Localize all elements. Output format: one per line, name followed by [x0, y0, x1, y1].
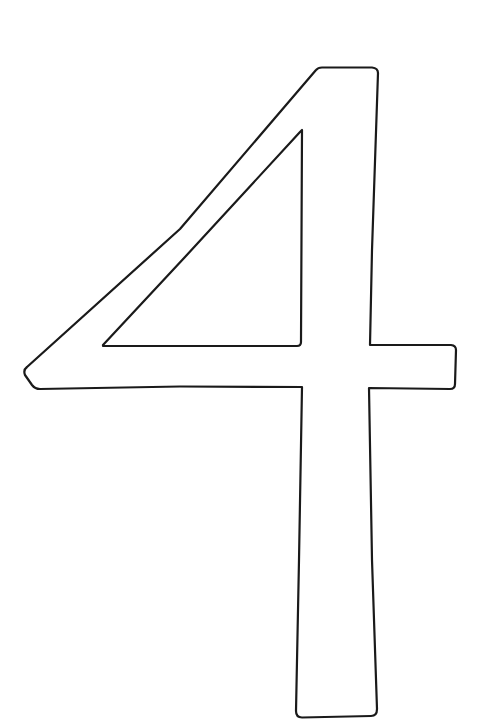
- coloring-page-canvas: 4: [0, 0, 486, 725]
- numeral-four-outline: [0, 0, 486, 725]
